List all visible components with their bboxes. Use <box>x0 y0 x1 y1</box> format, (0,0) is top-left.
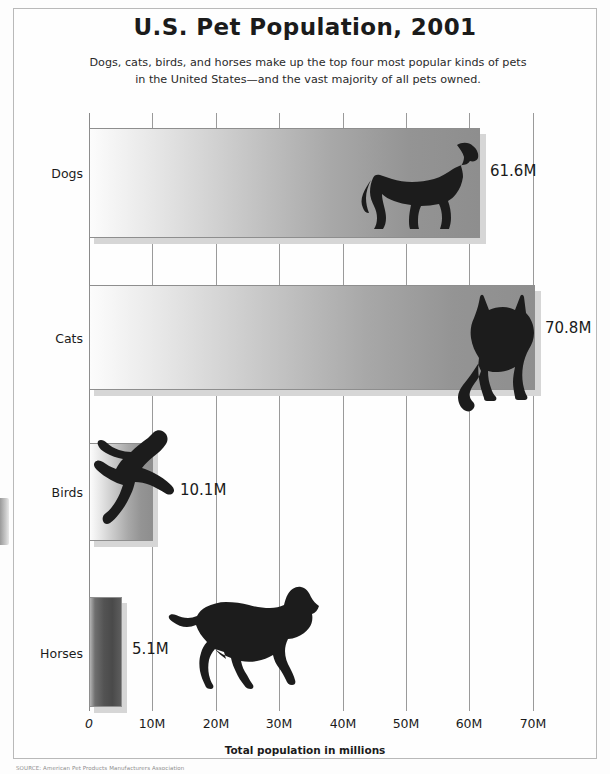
value-label-horses: 5.1M <box>132 640 169 658</box>
category-label-birds: Birds <box>11 485 83 500</box>
plot-area: 61.6M 70.8M 10.1M 5.1M <box>89 113 533 711</box>
value-label-cats: 70.8M <box>545 319 591 337</box>
value-label-birds: 10.1M <box>180 481 226 499</box>
horse-silhouette <box>168 586 320 696</box>
xtick-label-50: 50M <box>393 716 420 731</box>
xtick-label-70: 70M <box>520 716 547 731</box>
gridline-70 <box>533 113 534 711</box>
dog-silhouette <box>361 140 480 232</box>
bird-silhouette <box>92 429 175 542</box>
xtick-label-40: 40M <box>330 716 357 731</box>
x-axis-title: Total population in millions <box>0 744 610 756</box>
category-label-horses: Horses <box>11 646 83 661</box>
chart-subtitle: Dogs, cats, birds, and horses make up th… <box>88 54 528 88</box>
source-note: SOURCE: American Pet Products Manufactur… <box>16 765 184 771</box>
category-label-cats: Cats <box>11 331 83 346</box>
chart-page: U.S. Pet Population, 2001 Dogs, cats, bi… <box>0 0 610 774</box>
category-axis: Dogs Cats Birds Horses <box>0 0 83 774</box>
xtick-label-60: 60M <box>456 716 483 731</box>
value-label-dogs: 61.6M <box>490 162 536 180</box>
xtick-label-30: 30M <box>266 716 293 731</box>
category-label-dogs: Dogs <box>11 166 83 181</box>
xtick-label-10: 10M <box>139 716 166 731</box>
xtick-label-0: 0 <box>85 716 93 731</box>
bar-horses <box>89 597 122 707</box>
xtick-label-20: 20M <box>203 716 230 731</box>
chart-title: U.S. Pet Population, 2001 <box>0 14 610 40</box>
cat-silhouette <box>458 294 535 412</box>
